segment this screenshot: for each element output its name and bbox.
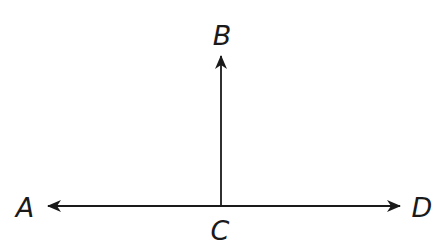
point-label-c: C [211, 215, 230, 245]
point-label-a: A [14, 192, 34, 223]
point-label-d: D [412, 192, 433, 223]
point-label-b: B [213, 20, 232, 51]
diagram-canvas: B A D C [0, 0, 444, 245]
